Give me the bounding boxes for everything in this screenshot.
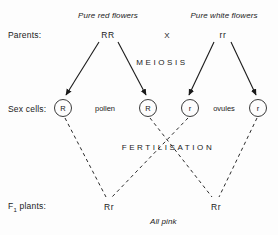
gamete-allele: R [145,104,150,113]
gamete-group-label-pollen: pollen [95,105,115,113]
gamete-allele: r [189,104,192,113]
meiosis-arrow-rr2-left [189,42,214,95]
stage-label-fertilisation: FERTILISATION [122,144,215,152]
gamete-allele: R [60,104,65,113]
gamete-group-label-ovules: ovules [213,105,235,113]
cross-symbol: X [164,32,169,40]
parent-left-genotype: RR [101,31,114,40]
parent-right-genotype: rr [220,31,227,40]
fertilisation-line-pollen2-to-right [150,118,212,197]
row-label-f1-plants: F1 plants: [8,202,46,213]
fertilisation-line-ovule2-to-right [219,118,257,197]
parent-left-caption: Pure red flowers [78,12,138,20]
parent-right-caption: Pure white flowers [190,12,257,20]
row-label-sex-cells: Sex cells: [8,105,46,114]
meiosis-arrow-rr-left [66,42,99,95]
gamete-cell-pollen-1: R [54,99,72,117]
gamete-cell-pollen-2: R [139,99,157,117]
fertilisation-line-ovule1-to-left [112,118,188,197]
gamete-cell-ovule-2: r [249,99,267,117]
genetics-cross-diagram: Parents: Pure red flowers RR X Pure whit… [0,0,278,235]
meiosis-arrows [66,42,256,95]
meiosis-arrow-rr2-right [231,42,256,95]
offspring-phenotype-caption: All pink [150,218,177,226]
fertilisation-line-pollen1-to-left [65,118,106,197]
fertilisation-lines [65,118,257,197]
offspring-right-genotype: Rr [211,203,221,212]
meiosis-arrow-rr-right [118,42,146,95]
offspring-left-genotype: Rr [104,203,114,212]
f1-label-suffix: plants: [17,201,46,211]
stage-label-meiosis: MEIOSIS [136,59,188,67]
gamete-cell-ovule-1: r [181,99,199,117]
diagram-edges [0,0,278,235]
row-label-parents: Parents: [8,31,41,40]
gamete-allele: r [257,104,260,113]
